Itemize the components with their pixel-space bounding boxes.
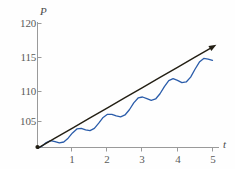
x-tick-label-1: 1: [62, 154, 82, 165]
y-tick-label-110: 110: [6, 86, 36, 97]
chart-figure: 120 115 110 105 1 2 3 4 5 P t: [0, 0, 235, 169]
y-tick-label-115: 115: [6, 52, 36, 63]
x-tick-label-4: 4: [168, 154, 188, 165]
x-tick-label-2: 2: [97, 154, 117, 165]
x-tick-label-5: 5: [203, 154, 223, 165]
x-axis-label: t: [223, 139, 226, 150]
x-tick-label-3: 3: [132, 154, 152, 165]
y-tick-label-120: 120: [6, 18, 36, 29]
y-axis-label: P: [40, 6, 47, 17]
origin-marker: [35, 145, 39, 149]
y-tick-label-105: 105: [6, 116, 36, 127]
